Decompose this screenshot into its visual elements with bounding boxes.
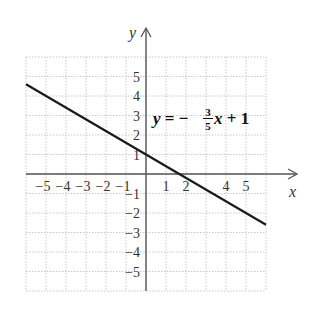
equation-annotation: y = −35x + 1	[151, 106, 249, 132]
x-tick-label: 5	[243, 179, 250, 194]
y-axis-label: y	[127, 24, 137, 42]
fraction-numerator: 3	[205, 106, 211, 118]
y-tick-label: 3	[133, 109, 140, 124]
y-tick-label: 2	[133, 128, 140, 143]
equation-rhs: x + 1	[213, 109, 249, 128]
x-tick-label: −2	[96, 179, 111, 194]
fraction-denominator: 5	[205, 120, 211, 132]
y-tick-label: −5	[125, 265, 140, 280]
equation-lhs: y = −	[151, 109, 188, 128]
x-tick-label: −4	[56, 179, 71, 194]
x-tick-label: 4	[223, 179, 230, 194]
y-tick-label: −2	[125, 206, 140, 221]
y-tick-label: 4	[133, 89, 140, 104]
x-axis-label: x	[288, 183, 296, 200]
y-tick-label: 5	[133, 70, 140, 85]
x-tick-label: −5	[36, 179, 51, 194]
x-tick-label: 2	[183, 179, 190, 194]
x-tick-label: 1	[163, 179, 170, 194]
y-tick-label: −3	[125, 226, 140, 241]
line-chart: −5−4−3−2−1124554321−1−2−3−4−5 xy y = −35…	[0, 0, 312, 312]
y-tick-label: −1	[125, 187, 140, 202]
x-tick-label: −3	[76, 179, 91, 194]
y-tick-label: −4	[125, 245, 140, 260]
